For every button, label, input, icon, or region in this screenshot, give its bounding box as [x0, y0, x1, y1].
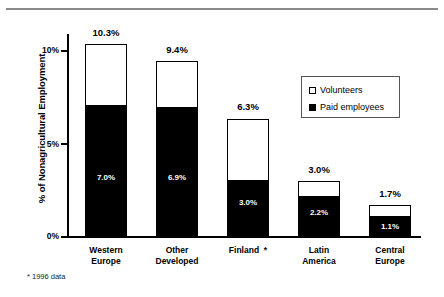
category-line-1: Latin: [309, 245, 329, 255]
bar-total-label: 10.3%: [71, 27, 141, 38]
bar-paid-label: 2.2%: [298, 208, 340, 217]
category-label-central-europe: Central Europe: [347, 245, 433, 267]
legend-swatch-filled-square-icon: [309, 104, 316, 111]
bar-segment-volunteers: [298, 181, 340, 197]
bar-segment-paid: [85, 105, 127, 237]
bar-paid-label: 3.0%: [227, 198, 269, 207]
bar-segment-volunteers: [85, 44, 127, 106]
bar-segment-paid: [227, 180, 269, 237]
bar-segment-paid: [156, 107, 198, 237]
category-line-2: America: [302, 256, 336, 266]
category-line-1: Central: [375, 245, 404, 255]
legend-label-volunteers: Volunteers: [320, 85, 363, 95]
bar-total-label: 1.7%: [355, 188, 425, 199]
category-line-2: Europe: [375, 256, 404, 266]
legend-entry-volunteers: Volunteers: [309, 85, 363, 95]
legend-swatch-empty-square-icon: [309, 87, 316, 94]
chart-legend: Volunteers Paid employees: [301, 76, 400, 118]
y-tick-label-0: 0%: [33, 231, 59, 241]
category-line-1: Finland: [229, 245, 259, 255]
legend-label-paid-employees: Paid employees: [320, 102, 384, 112]
bar-segment-volunteers: [227, 119, 269, 181]
y-tick-mark-5: [61, 143, 67, 145]
y-tick-mark-0: [61, 236, 67, 238]
chart-plot-area: % of Nonagricultural Employment 10% 5% 0…: [0, 0, 444, 297]
category-line-2: Developed: [156, 256, 199, 266]
bar-paid-label: 6.9%: [156, 173, 198, 182]
y-axis-title: % of Nonagricultural Employment: [36, 24, 47, 234]
bar-total-label: 9.4%: [142, 44, 212, 55]
y-axis-line: [67, 34, 69, 238]
y-tick-label-10: 10%: [33, 45, 59, 55]
y-tick-mark-10: [61, 50, 67, 52]
y-tick-label-5: 5%: [33, 139, 59, 149]
category-line-2: Europe: [91, 256, 120, 266]
footnote-marker: *: [264, 245, 267, 255]
chart-footnote: * 1996 data: [27, 272, 65, 281]
bar-segment-volunteers: [156, 61, 198, 108]
legend-entry-paid-employees: Paid employees: [309, 102, 384, 112]
bar-total-label: 6.3%: [213, 101, 283, 112]
bar-paid-label: 1.1%: [369, 222, 411, 231]
bar-total-label: 3.0%: [284, 164, 354, 175]
bar-paid-label: 7.0%: [85, 173, 127, 182]
category-line-1: Western: [89, 245, 122, 255]
category-line-1: Other: [166, 245, 189, 255]
chart-page: % of Nonagricultural Employment 10% 5% 0…: [0, 0, 444, 297]
